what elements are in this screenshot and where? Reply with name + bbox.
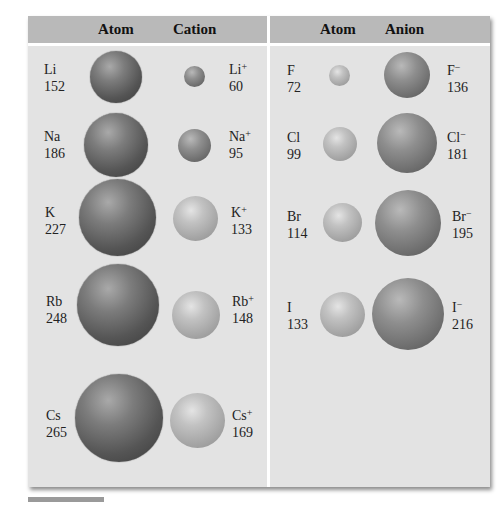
atom-label-br: Br 114 — [287, 208, 307, 242]
atom-symbol: I — [287, 299, 308, 316]
sphere-k-atom — [79, 179, 156, 256]
ion-radius: 195 — [452, 225, 473, 242]
ion-charge: − — [455, 62, 461, 73]
ion-label-f: F− 136 — [447, 62, 468, 96]
ion-symbol: I — [452, 300, 457, 315]
atom-radius: 152 — [44, 78, 65, 95]
sphere-li-cation — [184, 66, 205, 87]
atom-symbol: Cl — [287, 129, 301, 146]
ion-charge: − — [457, 299, 463, 310]
atom-symbol: K — [45, 204, 66, 221]
atom-symbol: F — [287, 62, 301, 79]
atom-symbol: Na — [44, 128, 65, 145]
ion-symbol: K — [231, 205, 241, 220]
ion-symbol: Li — [229, 62, 241, 77]
atom-label-i: I 133 — [287, 299, 308, 333]
atom-radius: 227 — [45, 221, 66, 238]
ion-symbol: F — [447, 63, 455, 78]
atom-radius: 133 — [287, 316, 308, 333]
sphere-f-atom — [329, 65, 350, 86]
ion-symbol: Na — [229, 129, 245, 144]
sphere-cl-atom — [323, 127, 357, 161]
atom-radius: 186 — [44, 145, 65, 162]
ion-label-rb: Rb+ 148 — [232, 293, 254, 327]
ion-symbol: Rb — [232, 294, 248, 309]
sphere-br-anion — [375, 190, 441, 256]
sphere-br-atom — [323, 203, 362, 242]
sphere-cs-atom — [75, 374, 163, 462]
atom-symbol: Cs — [46, 407, 67, 424]
atom-radius: 248 — [46, 310, 67, 327]
atom-symbol: Br — [287, 208, 307, 225]
ion-label-k: K+ 133 — [231, 204, 252, 238]
ion-radius: 216 — [452, 316, 473, 333]
ion-charge: − — [460, 129, 466, 140]
atom-label-f: F 72 — [287, 62, 301, 96]
atom-radius: 99 — [287, 146, 301, 163]
atom-label-cs: Cs 265 — [46, 407, 67, 441]
ion-label-na: Na+ 95 — [229, 128, 251, 162]
ion-charge: − — [466, 208, 472, 219]
header-anion: Anion — [385, 21, 424, 38]
ion-radius: 133 — [231, 221, 252, 238]
sphere-na-atom — [84, 113, 148, 177]
header-atom-right: Atom — [320, 21, 356, 38]
sphere-rb-cation — [172, 291, 220, 339]
ion-radius: 169 — [232, 424, 253, 441]
sphere-i-anion — [372, 278, 444, 350]
ion-radius: 60 — [229, 78, 247, 95]
ion-radius: 148 — [232, 310, 254, 327]
ionic-radii-figure: Atom Cation Atom Anion Li 152 Li+ 60 Na … — [28, 16, 490, 487]
ion-label-cs: Cs+ 169 — [232, 407, 253, 441]
sphere-k-cation — [173, 196, 218, 241]
ion-symbol: Br — [452, 209, 466, 224]
header-atom-left: Atom — [98, 21, 134, 38]
sphere-rb-atom — [77, 264, 159, 346]
ion-charge: + — [241, 204, 247, 215]
atom-symbol: Li — [44, 61, 65, 78]
atom-radius: 265 — [46, 424, 67, 441]
atom-label-k: K 227 — [45, 204, 66, 238]
atom-label-na: Na 186 — [44, 128, 65, 162]
ion-symbol: Cl — [447, 130, 460, 145]
atom-label-rb: Rb 248 — [46, 293, 67, 327]
atom-radius: 72 — [287, 79, 301, 96]
ion-symbol: Cs — [232, 408, 247, 423]
ion-label-li: Li+ 60 — [229, 61, 247, 95]
atom-label-cl: Cl 99 — [287, 129, 301, 163]
sphere-na-cation — [178, 129, 211, 162]
ion-label-br: Br− 195 — [452, 208, 473, 242]
ion-charge: + — [247, 407, 253, 418]
sphere-f-anion — [384, 52, 430, 98]
ion-charge: + — [245, 128, 251, 139]
ion-label-cl: Cl− 181 — [447, 129, 468, 163]
header-cation: Cation — [173, 21, 216, 38]
atom-label-li: Li 152 — [44, 61, 65, 95]
center-divider — [267, 16, 270, 487]
sphere-cl-anion — [377, 113, 437, 173]
ion-charge: + — [241, 61, 247, 72]
sphere-li-atom — [90, 51, 142, 103]
sphere-i-atom — [320, 292, 365, 337]
atom-symbol: Rb — [46, 293, 67, 310]
sphere-cs-cation — [170, 393, 225, 448]
atom-radius: 114 — [287, 225, 307, 242]
ion-radius: 181 — [447, 146, 468, 163]
ion-radius: 136 — [447, 79, 468, 96]
ion-radius: 95 — [229, 145, 251, 162]
ion-label-i: I− 216 — [452, 299, 473, 333]
ion-charge: + — [248, 293, 254, 304]
footer-rule — [28, 497, 104, 502]
